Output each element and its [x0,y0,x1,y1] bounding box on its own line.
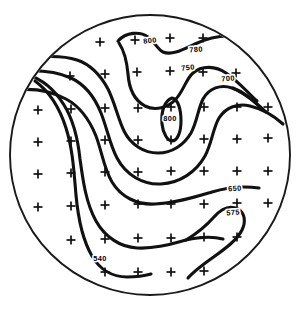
contour-value-label: 540 [93,254,107,263]
contour-value-label: 575 [226,207,240,217]
contour-value-label: 800 [163,114,177,123]
contour-value-label: 750 [181,62,195,72]
contour-value-label: 650 [228,184,242,194]
contour-map-figure: 8008007807807507507007008008006506505755… [0,0,301,311]
contour-value-label: 700 [221,73,235,83]
contour-map-canvas: 8008007807807507507007008008006506505755… [0,0,301,311]
contour-value-label: 800 [143,35,157,45]
contour-value-label: 780 [189,44,203,54]
